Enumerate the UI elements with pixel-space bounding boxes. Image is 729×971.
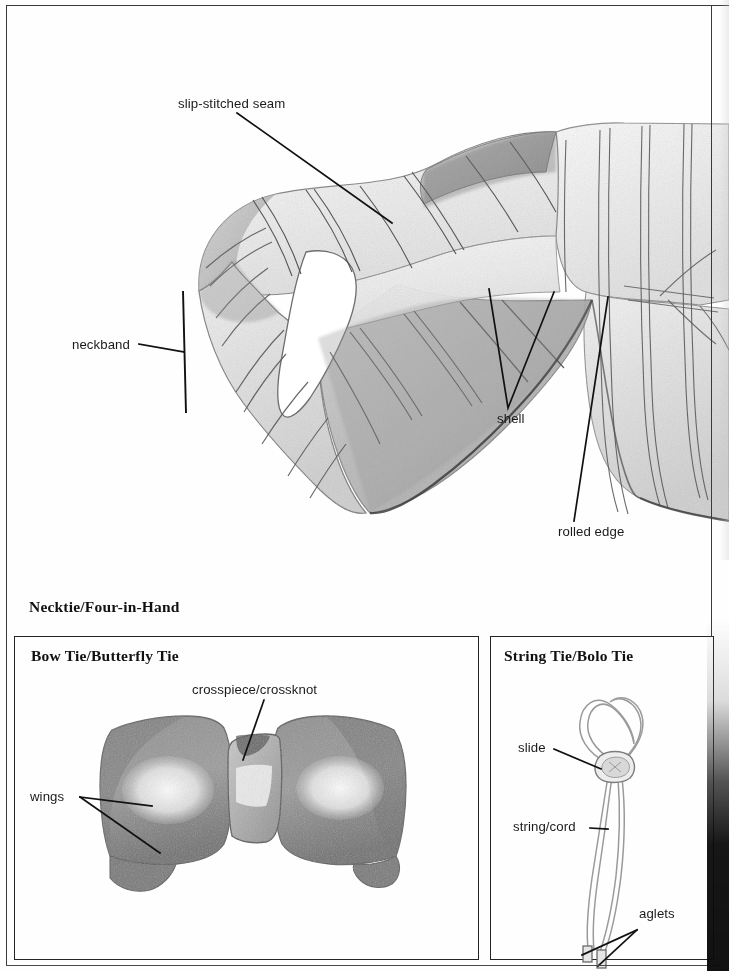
label-shell: shell — [497, 411, 525, 426]
label-wings: wings — [30, 789, 64, 804]
label-slide: slide — [518, 740, 546, 755]
page-border-bottom — [6, 965, 721, 966]
panel-string-tie — [490, 636, 714, 960]
scan-edge-gradient-top — [720, 0, 729, 560]
heading-string-tie: String Tie/Bolo Tie — [504, 647, 633, 665]
page-border-left — [6, 5, 7, 966]
page-border-right — [711, 5, 712, 637]
label-neckband: neckband — [72, 337, 130, 352]
page-border-top — [6, 5, 729, 6]
label-rolled-edge: rolled edge — [558, 524, 624, 539]
label-aglets: aglets — [639, 906, 675, 921]
label-slip-stitched-seam: slip-stitched seam — [178, 96, 285, 111]
label-string-cord: string/cord — [513, 819, 576, 834]
heading-bow-tie: Bow Tie/Butterfly Tie — [31, 647, 179, 665]
label-crosspiece: crosspiece/crossknot — [192, 682, 317, 697]
caption-necktie: Necktie/Four-in-Hand — [29, 598, 180, 616]
page-canvas: slip-stitched seam neckband shell rolled… — [0, 0, 729, 971]
